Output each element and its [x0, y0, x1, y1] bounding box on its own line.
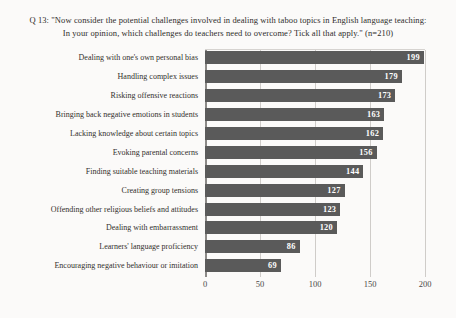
category-label: Learners' language proficiency — [8, 242, 205, 251]
bar-track: 173 — [205, 89, 425, 102]
bar: 123 — [205, 203, 340, 216]
bar-value-label: 120 — [320, 223, 337, 232]
bar-value-label: 69 — [268, 261, 281, 270]
bar-track: 123 — [205, 203, 425, 216]
bar: 144 — [205, 165, 363, 178]
x-tick-label: 150 — [364, 279, 377, 289]
bar-track: 163 — [205, 108, 425, 121]
bar-row: Evoking parental concerns156 — [8, 143, 442, 162]
bar-value-label: 86 — [287, 242, 300, 251]
survey-bar-chart-figure: Q 13: "Now consider the potential challe… — [0, 14, 456, 318]
category-label: Creating group tensions — [8, 186, 205, 195]
bar-row: Dealing with one's own personal bias199 — [8, 49, 442, 68]
bar-value-label: 199 — [407, 53, 424, 62]
category-label: Dealing with one's own personal bias — [8, 53, 205, 62]
category-label: Offending other religious beliefs and at… — [8, 205, 205, 214]
x-tick-label: 100 — [309, 279, 322, 289]
bar-track: 179 — [205, 70, 425, 83]
bar-row: Handling complex issues179 — [8, 67, 442, 86]
bar: 156 — [205, 146, 377, 159]
bar-value-label: 163 — [367, 110, 384, 119]
category-label: Finding suitable teaching materials — [8, 167, 205, 176]
bar-value-label: 173 — [378, 91, 395, 100]
bar-row: Creating group tensions127 — [8, 181, 442, 200]
category-label: Lacking knowledge about certain topics — [8, 129, 205, 138]
bar: 179 — [205, 70, 402, 83]
bar-track: 127 — [205, 184, 425, 197]
bar: 120 — [205, 221, 337, 234]
bar-row: Learners' language proficiency86 — [8, 237, 442, 256]
bar-value-label: 123 — [323, 205, 340, 214]
bar: 86 — [205, 240, 300, 253]
bar: 127 — [205, 184, 345, 197]
category-label: Evoking parental concerns — [8, 148, 205, 157]
bar-track: 86 — [205, 240, 425, 253]
bar-rows: Dealing with one's own personal bias199H… — [8, 49, 442, 276]
bar: 199 — [205, 51, 424, 64]
bar-value-label: 179 — [385, 72, 402, 81]
bar-value-label: 156 — [359, 148, 376, 157]
bar-value-label: 127 — [327, 186, 344, 195]
bar-track: 156 — [205, 146, 425, 159]
category-label: Handling complex issues — [8, 72, 205, 81]
category-label: Dealing with embarrassment — [8, 223, 205, 232]
bar: 69 — [205, 259, 281, 272]
bar-chart: Dealing with one's own personal bias199H… — [8, 49, 442, 296]
bar-track: 120 — [205, 221, 425, 234]
bar: 162 — [205, 127, 383, 140]
bar-row: Offending other religious beliefs and at… — [8, 200, 442, 219]
bar-value-label: 144 — [346, 167, 363, 176]
x-tick-label: 50 — [256, 279, 265, 289]
bar-row: Lacking knowledge about certain topics16… — [8, 124, 442, 143]
bar: 173 — [205, 89, 395, 102]
bar-row: Bringing back negative emotions in stude… — [8, 105, 442, 124]
bar-row: Risking offensive reactions173 — [8, 86, 442, 105]
x-axis: 050100150200 — [205, 275, 425, 295]
bar-track: 199 — [205, 51, 425, 64]
bar-track: 162 — [205, 127, 425, 140]
bar-value-label: 162 — [366, 129, 383, 138]
x-tick-label: 200 — [419, 279, 432, 289]
category-label: Encouraging negative behaviour or imitat… — [8, 261, 205, 270]
category-label: Bringing back negative emotions in stude… — [8, 110, 205, 119]
bar-row: Finding suitable teaching materials144 — [8, 162, 442, 181]
bar-track: 144 — [205, 165, 425, 178]
chart-title: Q 13: "Now consider the potential challe… — [28, 14, 428, 40]
category-label: Risking offensive reactions — [8, 91, 205, 100]
bar-track: 69 — [205, 259, 425, 272]
bar-row: Dealing with embarrassment120 — [8, 219, 442, 238]
x-tick-label: 0 — [203, 279, 207, 289]
bar-row: Encouraging negative behaviour or imitat… — [8, 256, 442, 275]
bar: 163 — [205, 108, 384, 121]
